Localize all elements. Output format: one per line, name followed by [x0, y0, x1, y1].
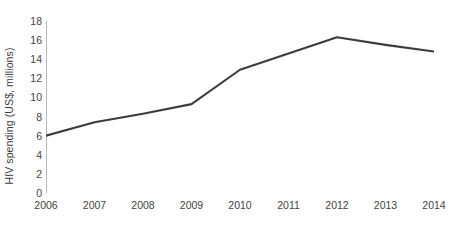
y-axis-title: HIV spending (US$, millions): [0, 0, 18, 232]
y-axis-tick-label: 0: [16, 187, 42, 199]
y-axis-tick-label: 16: [16, 34, 42, 46]
axis-lines: [46, 21, 434, 193]
y-axis-tick-label: 4: [16, 149, 42, 161]
x-axis-tick-label: 2010: [228, 199, 251, 211]
chart-canvas: [46, 21, 434, 193]
x-axis-tick-label: 2014: [422, 199, 445, 211]
x-axis-tick-label: 2011: [277, 199, 300, 211]
y-axis-tick-label: 14: [16, 53, 42, 65]
plot-area: [46, 21, 434, 193]
y-axis-tick-label: 2: [16, 168, 42, 180]
x-axis-tick-label: 2012: [325, 199, 348, 211]
x-axis-tick-label: 2013: [374, 199, 397, 211]
x-axis-tick-label: 2006: [34, 199, 57, 211]
y-axis-tick-label: 18: [16, 15, 42, 27]
x-axis-tick-label: 2007: [83, 199, 106, 211]
y-axis-tick-label: 12: [16, 72, 42, 84]
hiv-spending-line-chart: HIV spending (US$, millions) 02468101214…: [0, 0, 452, 232]
x-axis-tick-label: 2008: [131, 199, 154, 211]
data-series-group: [46, 37, 434, 135]
y-axis-tick-label: 10: [16, 91, 42, 103]
x-axis-tick-label: 2009: [180, 199, 203, 211]
y-axis-tick-label: 6: [16, 130, 42, 142]
y-axis-tick-label: 8: [16, 111, 42, 123]
